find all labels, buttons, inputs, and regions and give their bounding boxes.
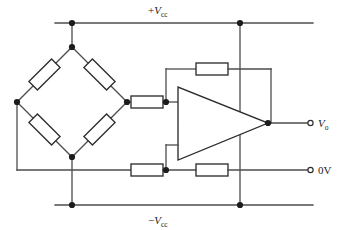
- bridge-left-to-ground-wire: [17, 102, 131, 170]
- svg-text:−Vcc: −Vcc: [148, 214, 168, 229]
- circuit-schematic: +Vcc −Vcc Vo 0V: [0, 0, 349, 230]
- node-vcc-right: [237, 20, 243, 26]
- bridge-resistor-bottom-right: [84, 114, 115, 145]
- circuit-diagram-figure: +Vcc −Vcc Vo 0V: [0, 0, 349, 230]
- svg-text:+Vcc: +Vcc: [148, 4, 168, 19]
- bridge-resistor-bottom-left: [29, 114, 60, 145]
- operational-amplifier: [178, 87, 268, 160]
- svg-text:Vo: Vo: [318, 117, 329, 132]
- node-vcc-bridge: [69, 20, 75, 26]
- node-noninverting-input: [163, 167, 169, 173]
- bridge-resistor-top-left: [29, 59, 60, 90]
- svg-text:0V: 0V: [318, 164, 332, 176]
- wheatstone-bridge: [17, 47, 127, 157]
- node-bridge-bottom: [69, 154, 75, 160]
- noninverting-input-wire: [166, 145, 178, 170]
- ground-terminal: [308, 167, 313, 172]
- node-inverting-input: [163, 99, 169, 105]
- node-bridge-left: [14, 99, 20, 105]
- ground-label: 0V: [318, 164, 332, 176]
- input-resistor: [127, 96, 178, 108]
- reference-resistor-right: [196, 164, 308, 176]
- output-subscript: o: [325, 123, 329, 132]
- ground-text: 0V: [318, 164, 332, 176]
- output-terminal: [308, 120, 313, 125]
- node-vee-bridge: [69, 202, 75, 208]
- bridge-resistor-top-right: [84, 59, 115, 90]
- negative-supply-label: −Vcc: [148, 214, 168, 229]
- node-vee-right: [237, 202, 243, 208]
- positive-supply-subscript: cc: [161, 10, 168, 19]
- negative-supply-subscript: cc: [161, 220, 168, 229]
- node-bridge-right: [124, 99, 130, 105]
- feedback-resistor: [196, 63, 228, 75]
- node-bridge-top: [69, 44, 75, 50]
- positive-supply-label: +Vcc: [148, 4, 168, 19]
- output-label: Vo: [318, 117, 329, 132]
- node-output: [265, 120, 271, 126]
